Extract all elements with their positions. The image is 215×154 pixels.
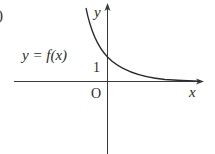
corner-mark: ) (0, 7, 3, 24)
x-axis-label: x (188, 84, 196, 100)
y-intercept-label: 1 (93, 60, 100, 75)
x-axis (14, 79, 204, 85)
y-axis-label: y (92, 4, 101, 20)
function-graph: ) y x O 1 y = f(x) (0, 0, 215, 154)
origin-label: O (91, 86, 101, 101)
function-curve (86, 8, 200, 81)
curve-label: y = f(x) (20, 47, 67, 64)
y-axis (105, 3, 111, 154)
